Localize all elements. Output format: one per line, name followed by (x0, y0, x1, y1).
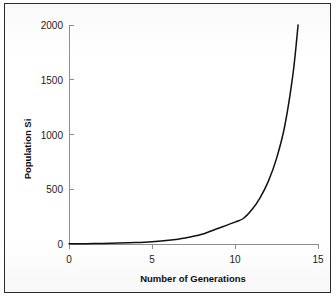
figure-frame: 2000 1500 1000 500 0 0 5 10 15 Populatio… (4, 3, 331, 293)
population-curve (69, 25, 298, 244)
x-tick-label: 5 (149, 254, 155, 265)
x-tick-marks (69, 244, 318, 249)
x-tick-label: 10 (229, 254, 241, 265)
y-tick-label: 0 (57, 239, 63, 250)
y-tick-label: 1000 (41, 130, 64, 141)
y-axis-title: Population Si (22, 119, 33, 180)
x-tick-label: 0 (66, 254, 72, 265)
x-axis-title: Number of Generations (140, 273, 246, 284)
y-tick-marks (69, 25, 74, 244)
population-growth-chart: 2000 1500 1000 500 0 0 5 10 15 Populatio… (5, 4, 330, 292)
x-tick-labels: 0 5 10 15 (66, 254, 324, 265)
y-tick-label: 500 (46, 184, 63, 195)
y-tick-label: 1500 (41, 75, 64, 86)
y-tick-labels: 2000 1500 1000 500 0 (41, 20, 64, 250)
x-tick-label: 15 (312, 254, 324, 265)
chart-area: 2000 1500 1000 500 0 0 5 10 15 Populatio… (5, 4, 330, 292)
y-tick-label: 2000 (41, 20, 64, 31)
axes-group (69, 25, 318, 244)
